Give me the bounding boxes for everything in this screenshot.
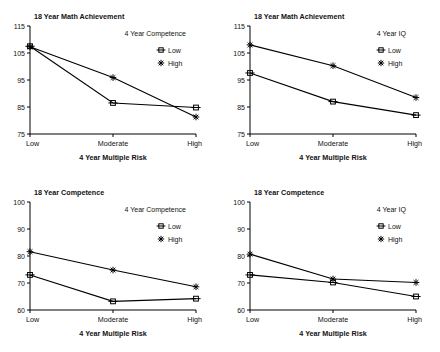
- series-line-low: [250, 73, 416, 115]
- y-axis-tick-label: 85: [237, 104, 245, 111]
- data-point-high-high: [193, 114, 200, 121]
- chart-panel-bottom-left: 18 Year Competence 60708090100LowModerat…: [0, 176, 220, 352]
- chart-svg-bottom-left: 18 Year Competence 60708090100LowModerat…: [0, 176, 220, 352]
- legend-item-label-low: Low: [168, 223, 182, 230]
- y-axis-tick-label: 75: [17, 131, 25, 138]
- x-axis-tick-label: Moderate: [318, 139, 348, 148]
- x-axis-tick-label: Low: [246, 315, 260, 324]
- marker-star-icon: [378, 236, 384, 242]
- marker-star-icon: [247, 42, 254, 49]
- y-axis-tick-label: 70: [17, 280, 25, 287]
- x-axis-tick-label: Low: [26, 315, 40, 324]
- marker-star-icon: [158, 60, 164, 66]
- legend: 4 Year CompetenceLowHigh: [125, 206, 187, 244]
- marker-star-icon: [413, 279, 420, 286]
- y-axis-tick-label: 105: [233, 50, 245, 57]
- data-point-high-moderate: [110, 74, 117, 81]
- legend-title: 4 Year IQ: [377, 206, 407, 214]
- legend-marker-low: [157, 48, 166, 52]
- x-axis-tick-label: Moderate: [318, 315, 348, 324]
- x-axis-tick-label: Moderate: [98, 139, 128, 148]
- legend-marker-high: [378, 60, 384, 66]
- chart-svg-top-right: 18 Year Math Achievement 758595105115Low…: [220, 0, 440, 176]
- x-axis-label: 4 Year Multiple Risk: [79, 329, 146, 338]
- data-point-high-low: [247, 42, 254, 49]
- marker-star-icon: [27, 43, 34, 50]
- data-point-high-low: [27, 248, 34, 255]
- y-axis-tick-label: 115: [234, 23, 245, 30]
- x-axis-tick-label: High: [407, 315, 422, 324]
- x-axis-tick-label: High: [187, 139, 202, 148]
- y-axis-tick-label: 100: [13, 199, 25, 206]
- chart-title: 18 Year Math Achievement: [34, 12, 125, 21]
- marker-star-icon: [247, 251, 254, 258]
- x-axis-tick-label: Moderate: [98, 315, 128, 324]
- x-axis-label: 4 Year Multiple Risk: [299, 329, 366, 338]
- marker-star-icon: [378, 60, 384, 66]
- marker-star-icon: [110, 74, 117, 81]
- chart-panel-top-right: 18 Year Math Achievement 758595105115Low…: [220, 0, 440, 176]
- data-point-high-high: [413, 279, 420, 286]
- legend-marker-high: [158, 60, 164, 66]
- legend-title: 4 Year IQ: [377, 30, 407, 38]
- legend-item-label-low: Low: [388, 47, 402, 54]
- plot-area: 60708090100LowModerateHigh4 Year Multipl…: [233, 199, 422, 338]
- x-axis-tick-label: High: [407, 139, 422, 148]
- legend: 4 Year IQLowHigh: [377, 30, 407, 68]
- legend-marker-low: [377, 48, 386, 52]
- chart-title: 18 Year Competence: [34, 188, 104, 197]
- marker-star-icon: [110, 267, 117, 274]
- legend-item-label-high: High: [388, 60, 403, 68]
- four-panel-line-chart-figure: 18 Year Math Achievement 758595105115Low…: [0, 0, 440, 352]
- y-axis-tick-label: 115: [14, 23, 25, 30]
- chart-svg-top-left: 18 Year Math Achievement 758595105115Low…: [0, 0, 220, 176]
- legend-marker-low: [157, 224, 166, 228]
- y-axis-tick-label: 95: [237, 77, 245, 84]
- x-axis-tick-label: Low: [246, 139, 260, 148]
- chart-panel-bottom-right: 18 Year Competence 60708090100LowModerat…: [220, 176, 440, 352]
- marker-star-icon: [413, 94, 420, 101]
- y-axis-tick-label: 90: [17, 226, 25, 233]
- y-axis-tick-label: 60: [237, 307, 245, 314]
- chart-panel-top-left: 18 Year Math Achievement 758595105115Low…: [0, 0, 220, 176]
- marker-star-icon: [158, 236, 164, 242]
- chart-axes: [30, 202, 196, 310]
- y-axis-tick-label: 105: [13, 50, 25, 57]
- legend-item-label-low: Low: [388, 223, 402, 230]
- plot-area: 758595105115LowModerateHigh4 Year Multip…: [233, 23, 422, 162]
- chart-title: 18 Year Competence: [254, 188, 324, 197]
- y-axis-tick-label: 60: [17, 307, 25, 314]
- data-point-high-high: [413, 94, 420, 101]
- legend: 4 Year CompetenceLowHigh: [125, 30, 187, 68]
- y-axis-tick-label: 75: [237, 131, 245, 138]
- legend-item-label-high: High: [388, 236, 403, 244]
- x-axis-label: 4 Year Multiple Risk: [299, 153, 366, 162]
- legend: 4 Year IQLowHigh: [377, 206, 407, 244]
- y-axis-tick-label: 90: [237, 226, 245, 233]
- y-axis-tick-label: 80: [17, 253, 25, 260]
- data-point-high-moderate: [330, 276, 337, 283]
- legend-item-label-high: High: [168, 236, 183, 244]
- x-axis-label: 4 Year Multiple Risk: [79, 153, 146, 162]
- legend-marker-low: [377, 224, 386, 228]
- marker-star-icon: [193, 283, 200, 290]
- data-point-low-high: [411, 113, 420, 118]
- y-axis-tick-label: 85: [17, 104, 25, 111]
- chart-title: 18 Year Math Achievement: [254, 12, 345, 21]
- y-axis-tick-label: 70: [237, 280, 245, 287]
- legend-marker-high: [378, 236, 384, 242]
- y-axis-tick-label: 80: [237, 253, 245, 260]
- data-point-low-high: [191, 296, 200, 301]
- legend-marker-high: [158, 236, 164, 242]
- series-line-low: [30, 275, 196, 301]
- legend-item-label-low: Low: [168, 47, 182, 54]
- data-point-high-high: [193, 283, 200, 290]
- chart-axes: [250, 202, 416, 310]
- data-point-high-moderate: [110, 267, 117, 274]
- data-point-low-high: [191, 105, 200, 110]
- data-point-low-moderate: [108, 299, 117, 304]
- x-axis-tick-label: Low: [26, 139, 40, 148]
- marker-star-icon: [330, 62, 337, 69]
- legend-item-label-high: High: [168, 60, 183, 68]
- plot-area: 758595105115LowModerateHigh4 Year Multip…: [13, 23, 202, 162]
